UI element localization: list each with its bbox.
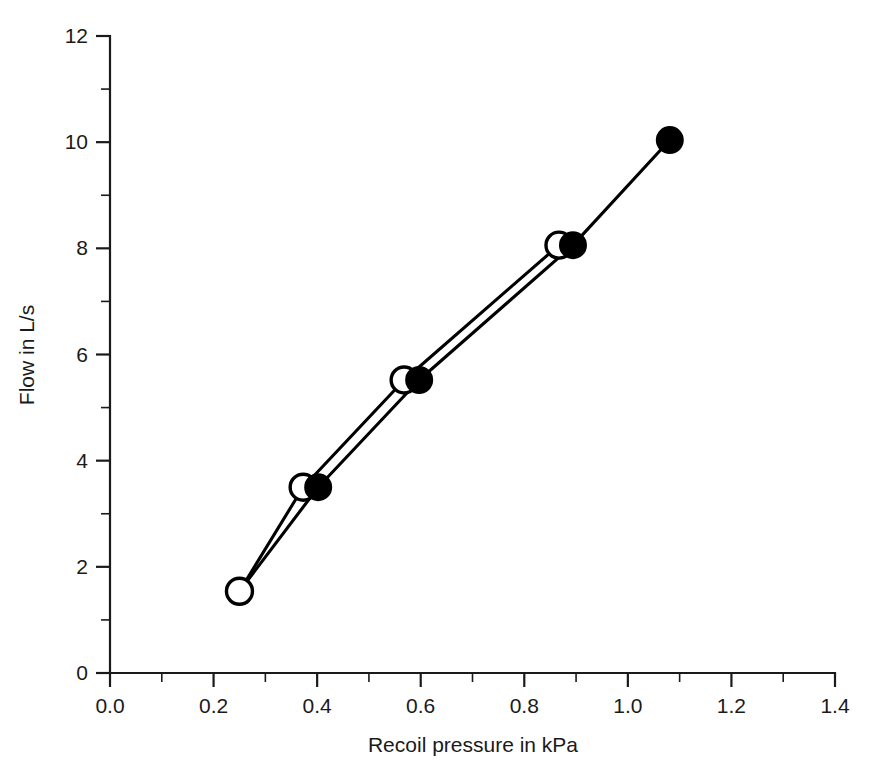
x-tick-label: 1.4 — [820, 694, 850, 717]
x-tick-label: 0.6 — [406, 694, 435, 717]
y-tick-label: 0 — [76, 661, 88, 684]
chart-background — [0, 0, 887, 774]
filled-circle-series-marker — [406, 367, 432, 393]
y-tick-label: 2 — [76, 555, 88, 578]
x-tick-label: 1.0 — [613, 694, 642, 717]
x-axis-title: Recoil pressure in kPa — [368, 733, 578, 756]
x-tick-label: 1.2 — [717, 694, 746, 717]
x-tick-label: 0.8 — [510, 694, 539, 717]
y-tick-label: 4 — [76, 449, 88, 472]
filled-circle-series-marker — [560, 232, 586, 258]
y-tick-label: 8 — [76, 236, 88, 259]
x-tick-label: 0.2 — [199, 694, 228, 717]
filled-circle-series-marker — [305, 474, 331, 500]
open-circle-series-marker — [226, 578, 252, 604]
chart-figure: 024681012 0.00.20.40.60.81.01.21.4 Recoi… — [0, 0, 887, 774]
y-tick-label: 10 — [65, 130, 88, 153]
y-axis-title: Flow in L/s — [15, 305, 38, 405]
x-tick-label: 0.0 — [95, 694, 124, 717]
filled-circle-series-marker — [657, 127, 683, 153]
y-tick-label: 6 — [76, 343, 88, 366]
chart-plot-area: 024681012 0.00.20.40.60.81.01.21.4 Recoi… — [0, 0, 887, 774]
x-tick-label: 0.4 — [303, 694, 333, 717]
y-tick-label: 12 — [65, 24, 88, 47]
